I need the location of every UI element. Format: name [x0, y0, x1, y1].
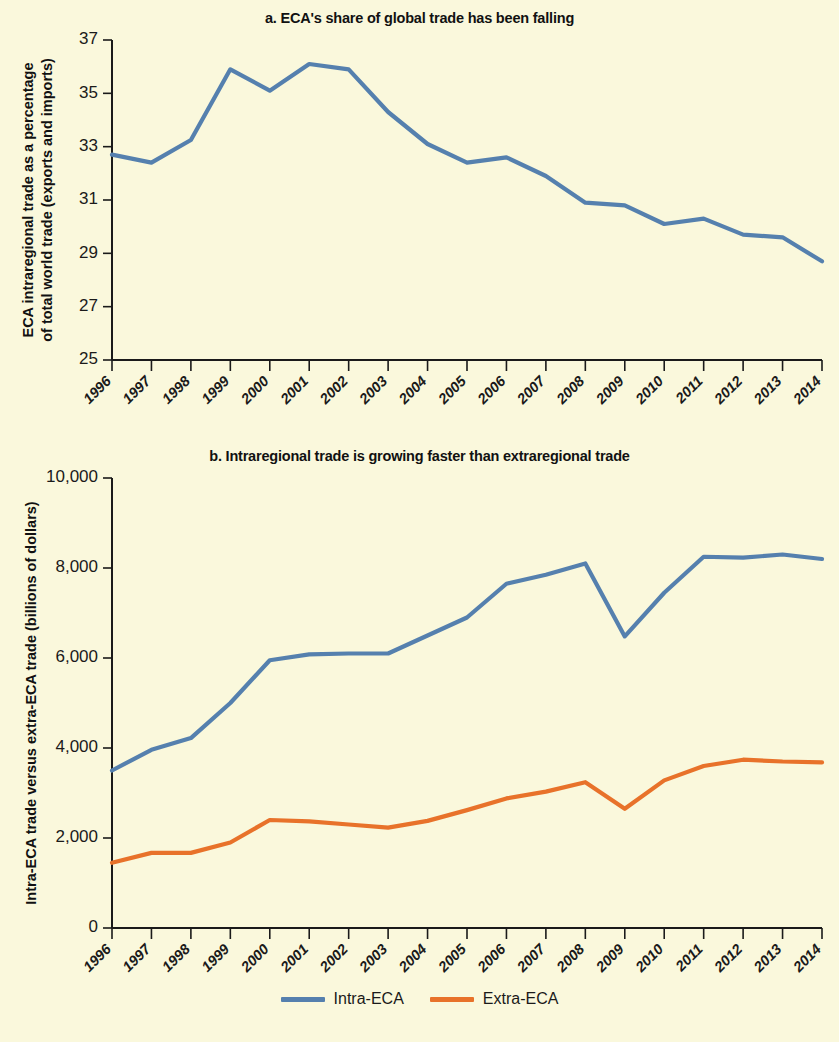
panel-a-title: a. ECA's share of global trade has been …	[0, 0, 839, 26]
x-tick-label: 2008	[553, 372, 588, 407]
series-line-intra-eca	[112, 555, 822, 771]
y-tick-label: 35	[79, 83, 98, 102]
x-tick-label: 1996	[80, 940, 115, 975]
x-tick-label: 2009	[592, 941, 627, 976]
x-tick-label: 2006	[474, 940, 509, 975]
x-tick-label: 1996	[80, 372, 115, 407]
y-axis-title: Intra-ECA trade versus extra-ECA trade (…	[23, 501, 39, 905]
y-tick-label: 8,000	[55, 557, 98, 576]
x-tick-label: 2005	[434, 372, 469, 407]
x-tick-label: 1997	[119, 372, 154, 407]
x-tick-label: 2002	[316, 373, 351, 408]
x-tick-label: 2000	[237, 373, 272, 408]
x-tick-label: 2002	[316, 941, 351, 976]
x-tick-label: 2012	[710, 373, 745, 408]
x-tick-label: 2001	[277, 941, 312, 976]
x-tick-label: 1998	[159, 372, 194, 407]
x-tick-label: 2013	[750, 941, 785, 976]
y-tick-label: 31	[79, 189, 98, 208]
y-axis-title-line: Intra-ECA trade versus extra-ECA trade (…	[23, 501, 39, 905]
panel-b-plot-area: 02,0004,0006,0008,00010,0001996199719981…	[0, 464, 839, 1024]
y-tick-label: 0	[89, 917, 98, 936]
series-line-eca-intraregional-trade-share	[112, 64, 822, 261]
x-tick-label: 2003	[355, 373, 390, 408]
x-tick-label: 2013	[750, 373, 785, 408]
legend-label-extra-eca: Extra-ECA	[483, 990, 559, 1008]
x-tick-label: 2011	[672, 941, 706, 975]
chart-legend: Intra-ECA Extra-ECA	[0, 990, 839, 1008]
x-tick-label: 1999	[198, 941, 232, 975]
x-tick-label: 1999	[198, 373, 232, 407]
legend-item-extra-eca: Extra-ECA	[430, 990, 559, 1008]
x-tick-label: 2000	[237, 941, 272, 976]
x-tick-label: 2006	[474, 372, 509, 407]
x-tick-label: 2005	[434, 940, 469, 975]
x-tick-label: 2007	[513, 372, 548, 407]
y-axis-title: ECA intraregional trade as a percentageo…	[20, 58, 55, 342]
y-tick-label: 37	[79, 29, 98, 48]
y-tick-label: 33	[79, 136, 98, 155]
x-tick-label: 2008	[553, 940, 588, 975]
y-tick-label: 27	[79, 296, 98, 315]
y-tick-label: 2,000	[55, 827, 98, 846]
y-axis-title-line: of total world trade (exports and import…	[39, 58, 55, 342]
legend-swatch-intra-eca	[281, 997, 325, 1002]
y-tick-label: 29	[79, 243, 98, 262]
x-tick-label: 2007	[513, 940, 548, 975]
y-tick-label: 4,000	[55, 737, 98, 756]
y-tick-label: 10,000	[46, 467, 98, 486]
panel-a-chart: 2527293133353719961997199819992000200120…	[0, 26, 839, 426]
legend-label-intra-eca: Intra-ECA	[334, 990, 404, 1008]
x-tick-label: 1997	[119, 940, 154, 975]
panel-b-chart: 02,0004,0006,0008,00010,0001996199719981…	[0, 464, 839, 1024]
panel-b: b. Intraregional trade is growing faster…	[0, 440, 839, 1042]
panel-a-plot-area: 2527293133353719961997199819992000200120…	[0, 26, 839, 426]
x-tick-label: 1998	[159, 940, 194, 975]
x-tick-label: 2014	[789, 373, 824, 408]
x-tick-label: 2001	[277, 373, 312, 408]
y-axis-title-line: ECA intraregional trade as a percentage	[20, 62, 36, 337]
series-line-extra-eca	[112, 760, 822, 863]
x-tick-label: 2010	[632, 373, 667, 408]
legend-item-intra-eca: Intra-ECA	[281, 990, 404, 1008]
x-tick-label: 2010	[632, 941, 667, 976]
legend-swatch-extra-eca	[430, 997, 474, 1002]
x-tick-label: 2003	[355, 941, 390, 976]
x-tick-label: 2014	[789, 941, 824, 976]
panel-a: a. ECA's share of global trade has been …	[0, 0, 839, 440]
x-tick-label: 2004	[395, 941, 430, 976]
y-tick-label: 6,000	[55, 647, 98, 666]
x-tick-label: 2011	[672, 373, 706, 407]
x-tick-label: 2009	[592, 373, 627, 408]
y-tick-label: 25	[79, 349, 98, 368]
x-tick-label: 2012	[710, 941, 745, 976]
x-tick-label: 2004	[395, 373, 430, 408]
panel-b-title: b. Intraregional trade is growing faster…	[0, 440, 839, 464]
